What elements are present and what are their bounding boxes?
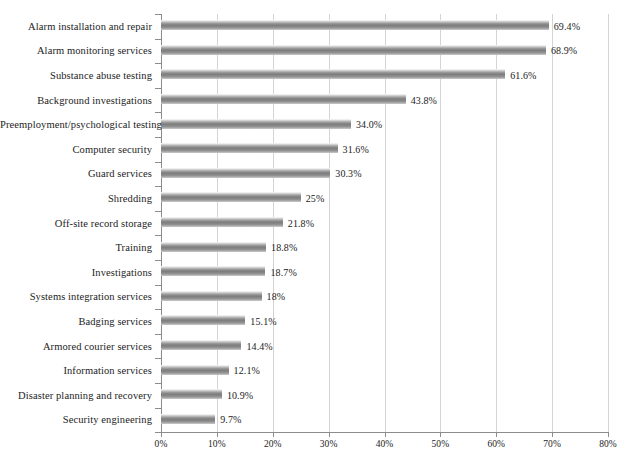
bar-value-label: 12.1% [234, 366, 260, 376]
bar [161, 94, 406, 104]
category-label: Systems integration services [0, 291, 152, 303]
bar [161, 340, 241, 350]
x-tick-label: 40% [365, 439, 405, 450]
x-tick-label: 30% [309, 439, 349, 450]
bar [161, 20, 549, 30]
bar [161, 315, 245, 325]
y-tick [155, 137, 161, 138]
figure-caption [18, 462, 618, 473]
category-label: Badging services [0, 316, 152, 328]
bar-row: 31.6% [161, 137, 608, 162]
category-label: Armored courier services [0, 341, 152, 353]
y-tick [155, 383, 161, 384]
x-tick-60% [496, 432, 497, 437]
bar-value-label: 15.1% [250, 317, 276, 327]
bar-value-label: 34.0% [356, 120, 382, 130]
category-label: Information services [0, 365, 152, 377]
bar-row: 10.9% [161, 383, 608, 408]
bar-row: 9.7% [161, 408, 608, 433]
bar-value-label: 18.8% [271, 243, 297, 253]
y-tick [155, 14, 161, 15]
x-tick-80% [608, 432, 609, 437]
x-tick-30% [329, 432, 330, 437]
bar [161, 143, 338, 153]
bar-value-label: 68.9% [551, 46, 577, 56]
bar-value-label: 9.7% [220, 415, 241, 425]
x-tick-50% [440, 432, 441, 437]
bar-value-label: 25% [306, 194, 325, 204]
x-tick-label: 80% [588, 439, 628, 450]
category-label: Guard services [0, 168, 152, 180]
x-tick-label: 60% [476, 439, 516, 450]
bar-row: 69.4% [161, 14, 608, 39]
bar [161, 266, 265, 276]
x-tick-label: 0% [141, 439, 181, 450]
bar-row: 43.8% [161, 88, 608, 113]
bar-value-label: 10.9% [227, 391, 253, 401]
bar-value-label: 18% [267, 292, 286, 302]
y-tick [155, 88, 161, 89]
x-tick-label: 70% [532, 439, 572, 450]
category-label: Preemployment/psychological testing [0, 119, 152, 131]
bar [161, 69, 505, 79]
category-label: Off-site record storage [0, 218, 152, 230]
y-tick [155, 211, 161, 212]
category-label: Computer security [0, 144, 152, 156]
x-tick-0% [161, 432, 162, 437]
category-label: Investigations [0, 267, 152, 279]
y-tick [155, 408, 161, 409]
y-tick [155, 260, 161, 261]
y-tick [155, 112, 161, 113]
bar-value-label: 18.7% [270, 268, 296, 278]
bar-value-label: 31.6% [343, 145, 369, 155]
bar-value-label: 21.8% [288, 219, 314, 229]
x-tick-label: 50% [420, 439, 460, 450]
y-tick [155, 358, 161, 359]
bar-row: 15.1% [161, 309, 608, 334]
x-tick-label: 10% [197, 439, 237, 450]
bar [161, 45, 546, 55]
y-tick [155, 63, 161, 64]
bar-row: 18.8% [161, 235, 608, 260]
bar-row: 68.9% [161, 39, 608, 64]
category-label: Alarm installation and repair [0, 21, 152, 33]
bar-value-label: 69.4% [554, 22, 580, 32]
category-label: Substance abuse testing [0, 70, 152, 82]
bar [161, 291, 262, 301]
category-label: Background investigations [0, 95, 152, 107]
x-tick-10% [217, 432, 218, 437]
bar [161, 365, 229, 375]
bar [161, 168, 330, 178]
bar [161, 119, 351, 129]
plot-area: 69.4%68.9%61.6%43.8%34.0%31.6%30.3%25%21… [161, 14, 608, 432]
y-tick [155, 162, 161, 163]
x-tick-20% [273, 432, 274, 437]
category-label: Shredding [0, 193, 152, 205]
y-tick [155, 309, 161, 310]
bar-row: 18% [161, 285, 608, 310]
y-tick [155, 235, 161, 236]
y-tick [155, 334, 161, 335]
bar-row: 18.7% [161, 260, 608, 285]
category-label: Disaster planning and recovery [0, 390, 152, 402]
category-label: Training [0, 242, 152, 254]
bar-row: 25% [161, 186, 608, 211]
bar-value-label: 30.3% [335, 169, 361, 179]
x-tick-70% [552, 432, 553, 437]
x-tick-40% [385, 432, 386, 437]
bar [161, 414, 215, 424]
bar-value-label: 43.8% [411, 96, 437, 106]
horizontal-bar-chart: 69.4%68.9%61.6%43.8%34.0%31.6%30.3%25%21… [0, 0, 633, 473]
bar-row: 30.3% [161, 162, 608, 187]
y-tick [155, 285, 161, 286]
bar-value-label: 61.6% [510, 71, 536, 81]
bar [161, 192, 301, 202]
bar-row: 12.1% [161, 358, 608, 383]
bar [161, 217, 283, 227]
bar-value-label: 14.4% [246, 342, 272, 352]
y-tick [155, 39, 161, 40]
gridline-80% [608, 14, 609, 432]
bar-row: 34.0% [161, 112, 608, 137]
bar-row: 61.6% [161, 63, 608, 88]
x-tick-label: 20% [253, 439, 293, 450]
